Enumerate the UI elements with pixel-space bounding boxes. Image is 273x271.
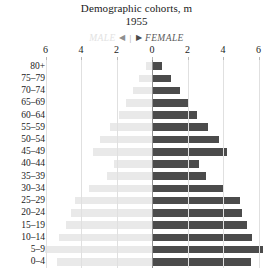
x-axis-tick-label: 2 (176, 44, 200, 56)
x-axis: 6420246 (0, 44, 273, 58)
pyramid-row: 10–14 (0, 231, 273, 243)
age-cohort-label: 5–9 (0, 244, 45, 255)
x-axis-tick-label: 2 (105, 44, 129, 56)
x-axis-tick-label: 0 (140, 44, 164, 56)
bar-male (119, 111, 152, 119)
bar-male (45, 246, 152, 254)
bar-female (152, 87, 180, 95)
chart-legend: MALE ◀ | ▶ FEMALE (0, 31, 273, 44)
bar-male (100, 136, 152, 144)
bar-male (93, 148, 152, 156)
gridline (188, 60, 189, 268)
bar-female (152, 160, 199, 168)
age-cohort-label: 20–24 (0, 207, 45, 218)
age-cohort-label: 65–69 (0, 97, 45, 108)
pyramid-row: 20–24 (0, 207, 273, 219)
age-cohort-label: 25–29 (0, 195, 45, 206)
age-cohort-label: 80+ (0, 61, 45, 72)
bar-female (152, 209, 242, 217)
pyramid-row: 65–69 (0, 97, 273, 109)
gridline (223, 60, 224, 268)
age-cohort-label: 45–49 (0, 146, 45, 157)
legend-female-label: FEMALE (145, 33, 184, 43)
bar-female (152, 197, 240, 205)
pyramid-row: 70–74 (0, 84, 273, 96)
gridline (46, 60, 47, 268)
center-axis-line (152, 60, 153, 268)
age-cohort-label: 40–44 (0, 158, 45, 169)
x-axis-tick-label: 4 (69, 44, 93, 56)
bar-female (152, 148, 227, 156)
bar-female (152, 258, 251, 266)
bar-female (152, 221, 247, 229)
pyramid-row: 0–4 (0, 256, 273, 268)
chart-title: Demographic cohorts, m (0, 2, 273, 15)
pyramid-row: 35–39 (0, 170, 273, 182)
demographic-pyramid-chart: Demographic cohorts, m 1955 MALE ◀ | ▶ F… (0, 0, 273, 271)
bar-male (133, 87, 152, 95)
age-cohort-label: 0–4 (0, 256, 45, 267)
legend-divider: | (128, 33, 132, 43)
pyramid-row: 75–79 (0, 72, 273, 84)
right-arrow-icon: ▶ (135, 33, 143, 42)
age-cohort-label: 75–79 (0, 73, 45, 84)
chart-title-block: Demographic cohorts, m 1955 (0, 2, 273, 28)
plot-area: 80+75–7970–7465–6960–6455–5950–5445–4940… (0, 60, 273, 268)
age-cohort-label: 10–14 (0, 232, 45, 243)
pyramid-row: 5–9 (0, 244, 273, 256)
bar-male (107, 172, 152, 180)
bar-male (59, 234, 152, 242)
bar-female (152, 234, 252, 242)
bar-male (89, 185, 152, 193)
pyramid-row: 40–44 (0, 158, 273, 170)
bar-male (57, 258, 152, 266)
bar-male (139, 75, 152, 83)
pyramid-row: 45–49 (0, 146, 273, 158)
bar-female (152, 246, 263, 254)
age-cohort-label: 15–19 (0, 220, 45, 231)
bar-male (75, 197, 152, 205)
pyramid-row: 50–54 (0, 133, 273, 145)
age-cohort-label: 50–54 (0, 134, 45, 145)
pyramid-row: 25–29 (0, 195, 273, 207)
x-axis-tick-label: 6 (247, 44, 271, 56)
x-axis-tick-label: 4 (211, 44, 235, 56)
bar-female (152, 62, 162, 70)
bar-male (66, 221, 152, 229)
bar-male (71, 209, 152, 217)
pyramid-row: 60–64 (0, 109, 273, 121)
age-cohort-label: 70–74 (0, 85, 45, 96)
bar-female (152, 123, 208, 131)
bar-rows: 80+75–7970–7465–6960–6455–5950–5445–4940… (0, 60, 273, 268)
age-cohort-label: 55–59 (0, 122, 45, 133)
x-axis-tick-label: 6 (34, 44, 58, 56)
pyramid-row: 30–34 (0, 182, 273, 194)
bar-female (152, 111, 197, 119)
bar-female (152, 99, 188, 107)
gridline (259, 60, 260, 268)
bar-male (126, 99, 152, 107)
age-cohort-label: 35–39 (0, 171, 45, 182)
bar-female (152, 172, 206, 180)
pyramid-row: 80+ (0, 60, 273, 72)
pyramid-row: 15–19 (0, 219, 273, 231)
bar-female (152, 75, 171, 83)
legend-male-label: MALE (89, 33, 115, 43)
gridline (81, 60, 82, 268)
left-arrow-icon: ◀ (118, 33, 126, 42)
bar-male (114, 160, 152, 168)
pyramid-row: 55–59 (0, 121, 273, 133)
gridline (117, 60, 118, 268)
chart-subtitle: 1955 (0, 15, 273, 28)
age-cohort-label: 60–64 (0, 110, 45, 121)
age-cohort-label: 30–34 (0, 183, 45, 194)
bar-female (152, 136, 219, 144)
